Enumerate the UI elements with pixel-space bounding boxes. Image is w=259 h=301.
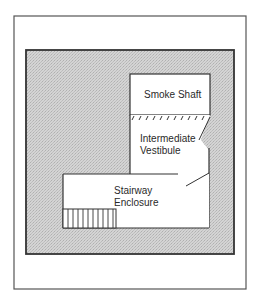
- floor-plan-diagram: [0, 0, 259, 301]
- vestibule-label-line1: Intermediate: [140, 133, 196, 145]
- vestibule-label-line2: Vestibule: [140, 145, 181, 157]
- stairway-label-line2: Enclosure: [114, 197, 158, 209]
- stairway-label-line1: Stairway: [114, 185, 152, 197]
- smoke-shaft-label: Smoke Shaft: [144, 89, 201, 101]
